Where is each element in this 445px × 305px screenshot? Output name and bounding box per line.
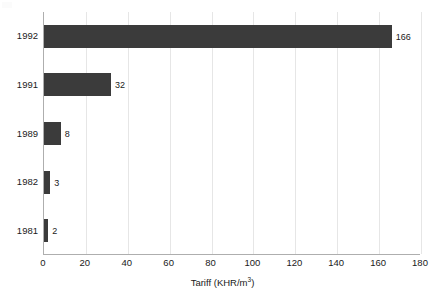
corner-artifact [2, 2, 12, 8]
x-axis-tick-label: 120 [286, 258, 302, 268]
x-axis-tick-label: 80 [205, 258, 216, 268]
bar-value-label: 8 [65, 130, 70, 139]
x-axis-tick-labels: 020406080100120140160180 [43, 258, 420, 272]
bar-value-label: 166 [396, 33, 411, 42]
y-axis-label: 1982 [0, 177, 38, 187]
value-labels-layer: 16632832 [43, 12, 443, 255]
x-axis-tick-label: 180 [412, 258, 428, 268]
bar-chart: 19921991198919821981 16632832 0204060801… [0, 0, 445, 305]
x-axis-title: Tariff (KHR/m3) [0, 278, 445, 288]
y-axis-label: 1981 [0, 226, 38, 236]
x-axis-title-base: Tariff (KHR/m [191, 277, 248, 288]
x-axis-tick-label: 140 [328, 258, 344, 268]
bar-value-label: 32 [115, 81, 125, 90]
x-axis-tick-label: 100 [245, 258, 261, 268]
y-axis-label: 1992 [0, 31, 38, 41]
bar-value-label: 2 [52, 227, 57, 236]
x-axis-tick-label: 160 [370, 258, 386, 268]
x-axis-tick-label: 40 [121, 258, 132, 268]
x-axis-tick-label: 0 [40, 258, 45, 268]
y-axis-category-labels: 19921991198919821981 [0, 12, 38, 255]
y-axis-label: 1991 [0, 80, 38, 90]
y-axis-label: 1989 [0, 129, 38, 139]
x-axis-title-tail: ) [251, 277, 254, 288]
bar-value-label: 3 [54, 179, 59, 188]
x-axis-tick-label: 20 [80, 258, 91, 268]
x-axis-tick-label: 60 [163, 258, 174, 268]
